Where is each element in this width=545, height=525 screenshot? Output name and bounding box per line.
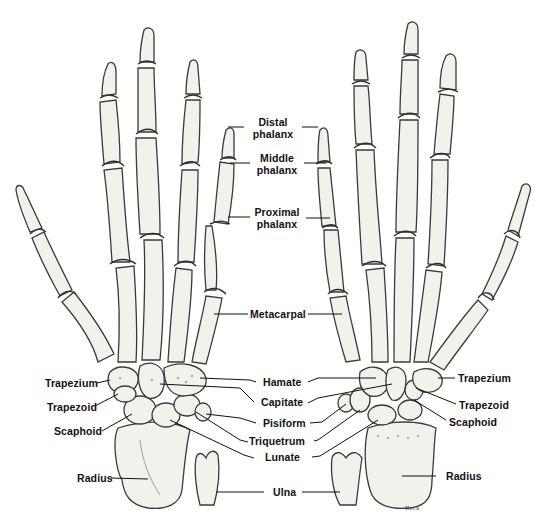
artist-signature: Beck	[405, 504, 419, 512]
right-radius-bone	[365, 422, 436, 508]
label-left-radius: Radius	[77, 472, 113, 484]
label-middle-phalanx-line2: phalanx	[250, 164, 304, 176]
left-little-finger	[192, 128, 236, 364]
label-middle-phalanx-line1: Middle	[250, 152, 304, 164]
right-ulna-bone	[331, 453, 362, 505]
label-right-scaphoid: Scaphoid	[449, 416, 497, 428]
label-right-trapezoid: Trapezoid	[459, 399, 509, 411]
label-right-trapezium: Trapezium	[458, 372, 511, 384]
label-proximal-phalanx-line2: phalanx	[248, 218, 306, 230]
label-left-trapezium: Trapezium	[45, 377, 98, 389]
left-index-finger	[100, 62, 137, 362]
label-left-trapezoid: Trapezoid	[47, 401, 97, 413]
right-hamate-bone	[359, 367, 388, 396]
left-radius-bone	[115, 422, 190, 508]
label-distal-phalanx-line1: Distal	[244, 116, 302, 128]
left-middle-finger	[136, 28, 164, 360]
label-proximal-phalanx-line1: Proximal	[248, 206, 306, 218]
label-ulna: Ulna	[273, 486, 296, 498]
left-hand	[16, 28, 236, 508]
right-ring-finger	[352, 50, 388, 362]
label-triquetrum: Triquetrum	[249, 435, 305, 447]
left-thumb	[16, 186, 114, 363]
right-hand	[316, 22, 530, 508]
label-lunate: Lunate	[265, 451, 300, 463]
label-metacarpal: Metacarpal	[250, 308, 306, 320]
right-lunate-bone	[368, 405, 396, 425]
label-proximal-phalanx: Proximal phalanx	[248, 206, 306, 230]
label-capitate: Capitate	[261, 396, 303, 408]
label-pisiform: Pisiform	[263, 417, 306, 429]
left-ulna-bone	[195, 451, 219, 505]
left-hamate-bone	[164, 364, 206, 396]
left-pisiform-bone	[195, 403, 211, 421]
right-middle-finger	[394, 22, 420, 362]
label-hamate: Hamate	[263, 376, 302, 388]
label-middle-phalanx: Middle phalanx	[250, 152, 304, 176]
label-distal-phalanx-line2: phalanx	[244, 128, 302, 140]
right-capitate-bone	[386, 367, 406, 400]
label-distal-phalanx: Distal phalanx	[244, 116, 302, 140]
label-left-scaphoid: Scaphoid	[54, 425, 102, 437]
label-right-radius: Radius	[446, 470, 482, 482]
right-index-finger	[414, 54, 458, 362]
left-ring-finger	[168, 60, 202, 362]
